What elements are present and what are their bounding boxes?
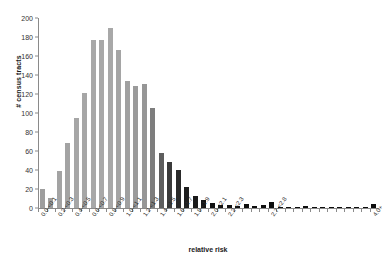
bar[interactable] [108, 28, 113, 208]
x-label-slot: 1.0-<1.1 [123, 213, 132, 247]
x-label-slot [319, 213, 328, 247]
bar-slot [98, 18, 107, 208]
bar[interactable] [354, 207, 359, 208]
bar[interactable] [116, 50, 121, 208]
bar[interactable] [337, 207, 342, 208]
bar-slot [72, 18, 81, 208]
x-label-slot [327, 213, 336, 247]
bar[interactable] [125, 81, 130, 208]
bar-slot [89, 18, 98, 208]
x-axis-tick-mark [38, 209, 39, 212]
bar[interactable] [252, 206, 257, 208]
x-label-slot [132, 213, 141, 247]
x-axis-tick-mark [251, 209, 252, 212]
x-axis-tick-mark [259, 209, 260, 212]
x-label-slot: 2.2-<2.3 [225, 213, 234, 247]
bar-slot [174, 18, 183, 208]
bar[interactable] [57, 171, 62, 208]
x-label-slot [302, 213, 311, 247]
bar-slot [149, 18, 158, 208]
x-label-slot [242, 213, 251, 247]
bar-slot [344, 18, 353, 208]
x-label-slot: 1.6-<1.7 [174, 213, 183, 247]
bar[interactable] [159, 153, 164, 208]
bar-slot [251, 18, 260, 208]
bar-slot [293, 18, 302, 208]
x-axis-tick-mark [293, 209, 294, 212]
bar-slot [361, 18, 370, 208]
x-axis-tick-mark [106, 209, 107, 212]
x-label-slot [166, 213, 175, 247]
y-axis-tick: 200 [21, 15, 38, 22]
x-label-slot [361, 213, 370, 247]
bar[interactable] [150, 108, 155, 208]
y-axis-tick-label: 80 [25, 129, 35, 136]
bar-slot [285, 18, 294, 208]
y-axis-tick: 0 [29, 205, 38, 212]
bar[interactable] [176, 170, 181, 208]
bar[interactable] [244, 204, 249, 208]
bar[interactable] [99, 40, 104, 208]
y-axis-tick-label: 200 [21, 15, 35, 22]
bar[interactable] [286, 207, 291, 208]
x-axis-tick-mark [157, 209, 158, 212]
x-axis-tick-mark [208, 209, 209, 212]
y-axis-tick-label: 120 [21, 91, 35, 98]
bar-slot [140, 18, 149, 208]
bar[interactable] [40, 189, 45, 208]
bar[interactable] [74, 118, 79, 208]
x-axis-tick-mark [319, 209, 320, 212]
y-axis-tick: 100 [21, 110, 38, 117]
bar[interactable] [320, 207, 325, 208]
bar[interactable] [295, 207, 300, 208]
bar[interactable] [312, 207, 317, 208]
x-axis-tick-labels: 0.0-<0.10.2-<0.30.4-<0.50.6-<0.70.8-<0.9… [38, 213, 378, 247]
bar-slot [123, 18, 132, 208]
plot-area: 020406080100120140160180200 [38, 18, 378, 208]
bar[interactable] [133, 86, 138, 208]
y-axis-tick: 80 [25, 129, 38, 136]
bar[interactable] [303, 206, 308, 208]
bar[interactable] [142, 84, 147, 208]
x-axis-tick-mark [72, 209, 73, 212]
x-label-slot [344, 213, 353, 247]
bar[interactable] [329, 207, 334, 208]
bar[interactable] [82, 93, 87, 208]
x-axis-tick-mark [242, 209, 243, 212]
x-axis-tick-mark [361, 209, 362, 212]
bar[interactable] [346, 207, 351, 208]
bar-slot [302, 18, 311, 208]
bar-slot [55, 18, 64, 208]
bar-slot [166, 18, 175, 208]
bar[interactable] [261, 205, 266, 208]
x-label-slot: 4.0+ [370, 213, 379, 247]
bar-slot [242, 18, 251, 208]
bar-slot [64, 18, 73, 208]
y-axis-tick-label: 180 [21, 34, 35, 41]
x-label-slot [183, 213, 192, 247]
x-label-slot [259, 213, 268, 247]
bar-slot [191, 18, 200, 208]
y-axis-tick-label: 140 [21, 72, 35, 79]
x-axis-tick-mark [225, 209, 226, 212]
y-axis-tick: 60 [25, 148, 38, 155]
x-axis-tick-mark [344, 209, 345, 212]
x-axis-tick-mark [302, 209, 303, 212]
y-axis-tick-label: 60 [25, 148, 35, 155]
y-axis-tick: 120 [21, 91, 38, 98]
x-label-slot [115, 213, 124, 247]
x-label-slot: 0.2-<0.3 [55, 213, 64, 247]
bar-slot [370, 18, 379, 208]
bar[interactable] [91, 40, 96, 208]
x-label-slot: 1.4-<1.5 [157, 213, 166, 247]
x-label-slot [276, 213, 285, 247]
y-axis-tick-label: 160 [21, 53, 35, 60]
x-label-slot [98, 213, 107, 247]
bar[interactable] [363, 207, 368, 208]
x-axis-tick-mark [55, 209, 56, 212]
bar-slot [276, 18, 285, 208]
x-axis-tick-mark [89, 209, 90, 212]
x-label-slot [81, 213, 90, 247]
x-label-slot [310, 213, 319, 247]
x-axis-title: relative risk [38, 246, 378, 253]
